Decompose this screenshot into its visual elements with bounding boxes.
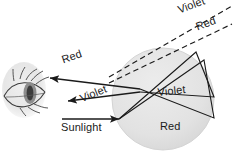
label-sunlight: Sunlight: [61, 121, 102, 133]
figure-canvas: Red Violet Sunlight Violet Red Violet Re…: [0, 0, 233, 152]
eye-illustration: [2, 62, 49, 118]
label-red-internal: Red: [160, 120, 180, 132]
